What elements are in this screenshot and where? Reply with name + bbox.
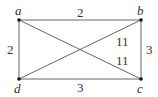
weight-a-b: 2	[77, 5, 84, 20]
vertex-label-a: a	[15, 3, 22, 18]
vertex-b	[139, 18, 143, 22]
weight-d-c: 3	[77, 80, 84, 95]
vertex-label-c: c	[137, 81, 143, 96]
vertex-a	[17, 18, 21, 22]
weight-d-b: 11	[116, 34, 129, 49]
vertex-label-b: b	[137, 3, 144, 18]
weight-b-c: 3	[146, 42, 153, 57]
weighted-graph: a b c d 2 2 3 3 11 11	[0, 0, 158, 97]
weight-a-d: 2	[7, 42, 14, 57]
weight-a-c: 11	[116, 53, 129, 68]
vertex-label-d: d	[14, 81, 21, 96]
